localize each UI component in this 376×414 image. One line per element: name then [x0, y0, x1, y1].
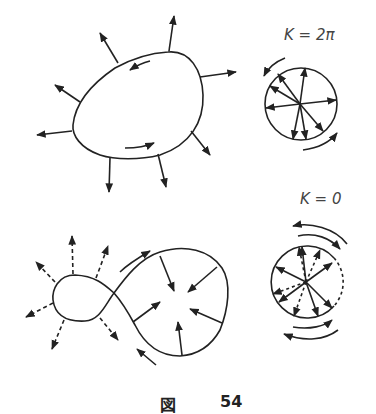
convex-curve-outward-normals [37, 16, 236, 192]
label-k-2pi: K = 2π [284, 26, 335, 44]
circle-k-2pi [264, 58, 337, 150]
figure-eight-curve [26, 236, 228, 365]
figure-caption-prefix: 図 [160, 392, 176, 414]
circle-k-0 [271, 225, 347, 339]
label-k-0: K = 0 [300, 190, 341, 208]
figure-caption-number: 54 [220, 392, 242, 411]
